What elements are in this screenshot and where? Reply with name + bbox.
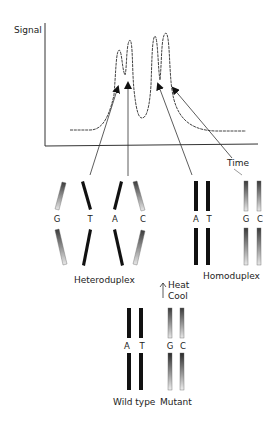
y-axis-label: Signal — [14, 25, 42, 35]
heteroduplex-base-t: T — [86, 214, 93, 224]
mutant-base-g: G — [167, 341, 174, 351]
elution-curve — [70, 33, 246, 131]
homoduplex-base-g: G — [243, 214, 250, 224]
heat-cool-step: Heat Cool — [160, 280, 190, 301]
homoduplex-label: Homoduplex — [203, 271, 261, 281]
heteroduplex-base-g: G — [54, 214, 61, 224]
heteroduplex-base-c: C — [140, 214, 146, 224]
heat-label: Heat — [168, 280, 190, 290]
cool-label: Cool — [168, 291, 188, 301]
mutant-label: Mutant — [160, 397, 192, 407]
homoduplex-mutant: G C — [243, 181, 263, 265]
x-axis-label-pointer — [234, 169, 242, 175]
homoduplex-group: A T G C Homoduplex — [193, 181, 263, 281]
homoduplex-base-a: A — [193, 214, 199, 224]
homoduplex-base-c: C — [257, 214, 263, 224]
heteroduplex-label: Heteroduplex — [74, 275, 135, 285]
dhplc-diagram: Signal Time — [0, 0, 273, 427]
homoduplex-base-t: T — [205, 214, 212, 224]
wildtype-base-a: A — [124, 341, 130, 351]
x-axis-label: Time — [226, 158, 249, 168]
mutant-base-c: C — [180, 341, 186, 351]
arrow-gt-peak — [90, 87, 118, 175]
homoduplex-wildtype: A T — [193, 181, 212, 265]
heteroduplex-base-a: A — [112, 214, 118, 224]
peak-arrows — [90, 83, 232, 176]
wildtype-base-t: T — [138, 341, 145, 351]
wildtype-allele: A T Wild type — [113, 308, 156, 407]
x-axis — [45, 144, 258, 146]
arrow-at-peak — [158, 84, 192, 175]
wildtype-label: Wild type — [113, 397, 156, 407]
chromatogram: Signal Time — [14, 23, 258, 175]
mutant-allele: G C Mutant — [160, 308, 192, 407]
heteroduplex-group: G T A C Heteroduplex — [54, 181, 146, 285]
